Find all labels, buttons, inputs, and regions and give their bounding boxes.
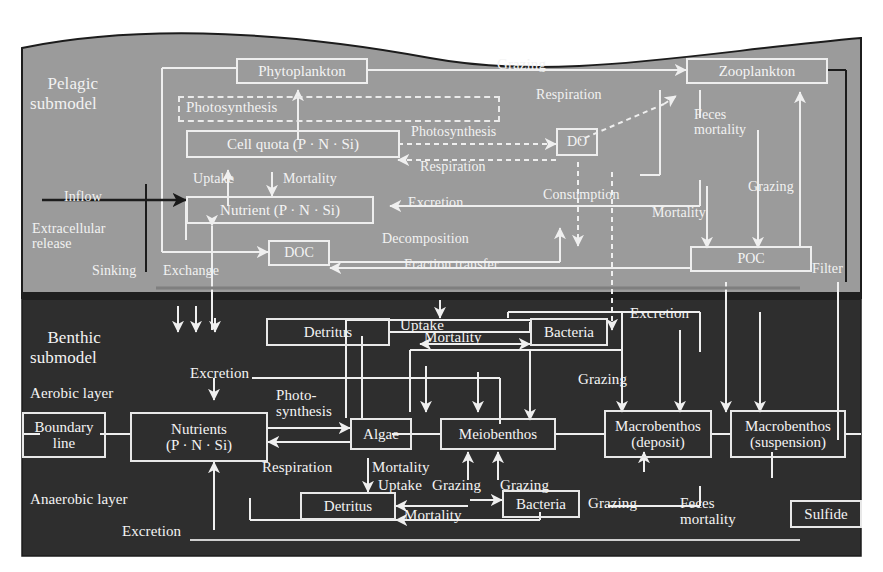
- flow-respiration-do: Respiration: [420, 160, 486, 175]
- box-cell-quota[interactable]: Cell quota (P · N · Si): [186, 130, 400, 158]
- box-boundary-line[interactable]: Boundary line: [22, 412, 106, 458]
- flow-excretion-pelagic: Excretion: [408, 196, 463, 211]
- flow-grazing-bacteria-lower: Grazing: [588, 496, 637, 512]
- flow-excretion-benthic-lower: Excretion: [122, 524, 181, 540]
- box-nutrient[interactable]: Nutrient (P · N · Si): [186, 196, 374, 224]
- flow-fraction-transfer: Fraction transfer: [404, 258, 499, 273]
- flow-respiration-zoo-do: Respiration: [536, 88, 602, 103]
- sediment-interface: [22, 292, 861, 300]
- flow-feces-mortality-pelagic: Feces mortality: [694, 108, 746, 137]
- flow-filter: Filter: [812, 262, 843, 277]
- flow-photosynthesis-benthic: Photo- synthesis: [276, 388, 332, 420]
- flow-decomposition: Decomposition: [382, 232, 469, 247]
- flow-uptake-nutrient: Uptake: [193, 172, 234, 187]
- flow-grazing-poc-zoo: Grazing: [748, 180, 794, 195]
- flow-mortality-cellquota: Mortality: [283, 172, 337, 187]
- flow-respiration-algae: Respiration: [262, 460, 332, 476]
- box-zooplankton[interactable]: Zooplankton: [686, 58, 828, 84]
- figure-canvas: Pelagic submodel Photosynthesis Phytopla…: [0, 0, 883, 572]
- flow-mortality-zoo-poc: Mortality: [652, 206, 706, 221]
- anaerobic-layer-label: Anaerobic layer: [30, 492, 128, 508]
- flow-mortality-benthic-lower: Mortality: [404, 508, 462, 524]
- flow-uptake-benthic-lower: Uptake: [378, 478, 422, 494]
- box-phytoplankton[interactable]: Phytoplankton: [236, 58, 368, 84]
- box-detritus-lower[interactable]: Detritus: [300, 492, 396, 520]
- flow-grazing-phyto-zoo: Grazing: [497, 57, 546, 73]
- box-doc[interactable]: DOC: [268, 240, 330, 266]
- flow-mortality-bacteria-detritus: Mortality: [424, 330, 482, 346]
- box-algae[interactable]: Algae: [350, 418, 412, 450]
- box-poc[interactable]: POC: [690, 246, 812, 272]
- flow-grazing-meio-right: Grazing: [500, 478, 549, 494]
- box-macrobenthos-deposit[interactable]: Macrobenthos (deposit): [604, 410, 712, 458]
- flow-inflow: Inflow: [64, 190, 102, 205]
- box-macrobenthos-suspension[interactable]: Macrobenthos (suspension): [730, 410, 846, 458]
- flow-consumption: Consumption: [543, 188, 620, 203]
- flow-excretion-benthic-mid: Excretion: [190, 366, 249, 382]
- flow-grazing-meio-left: Grazing: [432, 478, 481, 494]
- flow-photosynthesis-do: Photosynthesis: [411, 125, 496, 140]
- box-sulfide[interactable]: Sulfide: [790, 500, 862, 528]
- box-detritus-upper[interactable]: Detritus: [266, 318, 390, 346]
- box-do[interactable]: DO: [556, 128, 598, 156]
- flow-sinking: Sinking: [92, 264, 136, 279]
- flow-mortality-algae: Mortality: [372, 460, 430, 476]
- flow-feces-mortality-benthic: Feces mortality: [680, 496, 736, 528]
- flow-exchange: Exchange: [163, 264, 219, 279]
- benthic-section-title: Benthic submodel: [30, 308, 101, 388]
- box-nutrients-benthic[interactable]: Nutrients (P · N · Si): [130, 412, 268, 462]
- box-bacteria-upper[interactable]: Bacteria: [530, 318, 608, 346]
- pelagic-section-title: Pelagic submodel: [30, 54, 98, 134]
- flow-extracellular-release: Extracellular release: [32, 222, 106, 251]
- flow-excretion-benthic-upper: Excretion: [630, 306, 689, 322]
- box-bacteria-lower[interactable]: Bacteria: [502, 490, 580, 518]
- flow-grazing-bacteria-upper: Grazing: [578, 372, 627, 388]
- aerobic-layer-label: Aerobic layer: [30, 386, 113, 402]
- photosynthesis-region-label: Photosynthesis: [186, 100, 277, 116]
- box-meiobenthos[interactable]: Meiobenthos: [440, 418, 556, 450]
